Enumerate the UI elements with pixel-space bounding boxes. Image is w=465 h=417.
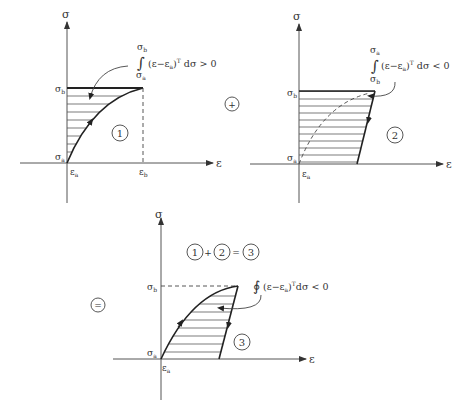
- loading-curve-1: [67, 88, 143, 163]
- svg-text:σb: σb: [137, 42, 147, 53]
- eps-a-label-2: εa: [302, 169, 311, 180]
- y-axis-label-1: σ: [62, 8, 70, 21]
- hatch-area-2: [295, 92, 380, 163]
- sigma-a-label-3: σa: [147, 348, 157, 359]
- eps-a-label-1: εa: [70, 167, 79, 178]
- sigma-b-label-2: σb: [287, 88, 297, 99]
- svg-text:+: +: [228, 100, 236, 110]
- integral-pointer-arrow-2: [369, 82, 395, 96]
- svg-text:2: 2: [219, 247, 225, 258]
- sigma-b-label-3: σb: [147, 282, 157, 293]
- y-axis-label-2: σ: [293, 10, 301, 23]
- integral-pointer-arrow-3: [219, 295, 261, 309]
- y-axis-label-3: σ: [155, 208, 163, 221]
- unloading-line-2: [357, 91, 375, 164]
- eps-b-label-1: εb: [139, 167, 148, 178]
- plus-operator: +: [225, 97, 239, 111]
- eps-a-label-3: εa: [162, 363, 171, 374]
- x-axis-label-2: ε: [446, 158, 452, 171]
- panel-1: σ ε σb σa εa εb 1 σb ∫ σa (ε−εa)T dσ > 0: [20, 8, 222, 203]
- region-label-3: 3: [239, 337, 245, 348]
- svg-text:(ε−εa)Tdσ < 0: (ε−εa)Tdσ < 0: [263, 280, 328, 293]
- sigma-b-label-1: σb: [55, 84, 65, 95]
- panel-3: σ ε σb σa εa 3 1 + 2 = 3 ∮ (ε−εa)Tdσ < 0: [113, 208, 328, 400]
- sigma-a-label-1: σa: [55, 152, 65, 163]
- svg-text:(ε−εa)T dσ < 0: (ε−εa)T dσ < 0: [381, 59, 449, 72]
- contour-integral-sign: ∮: [253, 278, 260, 294]
- hatch-area-1: [60, 96, 150, 152]
- integral-expression-1: σb ∫ σa (ε−εa)T dσ > 0: [136, 42, 216, 81]
- sigma-a-label-2: σa: [287, 153, 297, 164]
- region-label-1: 1: [117, 128, 123, 139]
- svg-text:σb: σb: [370, 74, 380, 85]
- x-axis-label-1: ε: [216, 157, 222, 170]
- svg-text:1: 1: [192, 247, 198, 258]
- svg-text:=: =: [94, 301, 102, 311]
- hatch-area-3: [150, 296, 245, 352]
- svg-text:+: +: [204, 248, 212, 258]
- integral-sign-2: ∫: [371, 57, 379, 75]
- panel-2: σ ε σb σa εa 2 σa ∫ σb (ε−εa)T dσ < 0: [250, 10, 452, 203]
- svg-text:=: =: [232, 248, 240, 258]
- loading-arrow-1: [88, 120, 92, 126]
- integral-expression-3: ∮ (ε−εa)Tdσ < 0: [253, 278, 328, 294]
- x-axis-label-3: ε: [309, 353, 315, 366]
- loading-curve-3: [161, 286, 238, 359]
- region-label-2: 2: [392, 130, 398, 141]
- sum-equation: 1 + 2 = 3: [187, 244, 259, 260]
- strain-stress-cycle-diagram: σ ε σb σa εa εb 1 σb ∫ σa (ε−εa)T dσ > 0…: [0, 0, 465, 417]
- integral-pointer-arrow-1: [90, 66, 128, 98]
- equals-operator: =: [91, 298, 105, 312]
- svg-text:(ε−εa)T dσ > 0: (ε−εa)T dσ > 0: [148, 57, 216, 70]
- svg-text:σa: σa: [370, 45, 380, 56]
- integral-expression-2: σa ∫ σb (ε−εa)T dσ < 0: [370, 45, 449, 85]
- svg-text:3: 3: [248, 247, 254, 258]
